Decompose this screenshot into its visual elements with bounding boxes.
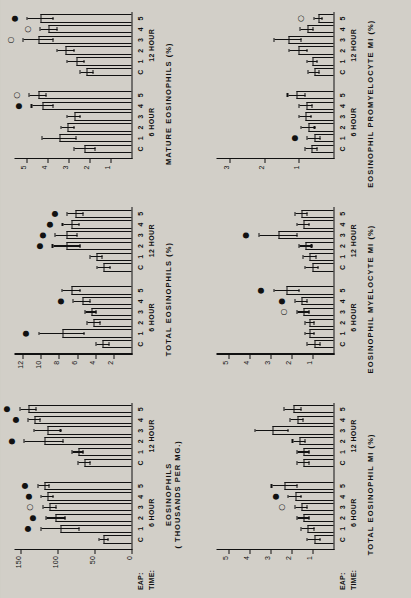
bar <box>34 416 131 424</box>
error-cap-upper <box>45 516 46 520</box>
error-cap-lower <box>319 136 320 140</box>
bar <box>78 448 131 456</box>
error-cap-lower <box>73 126 74 130</box>
panel-title: TOTAL EOSINOPHILS (%) <box>163 201 172 396</box>
error-cap-lower <box>76 233 77 237</box>
error-bar <box>62 290 80 291</box>
y-tick-label: 2 <box>258 165 265 169</box>
x-tick-label: C <box>136 146 144 151</box>
x-tick-label: 3 <box>136 115 144 119</box>
error-cap-upper <box>26 17 27 21</box>
x-tick-label: 3 <box>136 505 144 509</box>
error-cap-lower <box>56 27 57 31</box>
error-cap-upper <box>294 505 295 509</box>
x-tick-label: 4 <box>338 222 346 226</box>
chart-panel-total-eosinophils-pct: 24681012●●●●●●C12345C123456 HOUR12 HOURT… <box>4 201 206 396</box>
x-axis-group-labels: 6 HOUR12 HOUR <box>349 12 360 158</box>
y-tick <box>20 550 21 554</box>
significance-marker: ● <box>20 482 28 489</box>
error-cap-lower <box>79 289 80 293</box>
error-cap-lower <box>308 461 309 465</box>
error-cap-lower <box>321 17 322 21</box>
error-cap-lower <box>108 342 109 346</box>
error-cap-upper <box>296 310 297 314</box>
error-cap-lower <box>73 49 74 53</box>
bar <box>28 405 131 413</box>
error-cap-upper <box>299 27 300 31</box>
error-cap-lower <box>45 93 46 97</box>
error-cap-lower <box>83 60 84 64</box>
error-cap-upper <box>40 527 41 531</box>
significance-marker: ● <box>23 525 31 532</box>
bar <box>48 25 130 33</box>
error-cap-upper <box>66 212 67 216</box>
x-tick-label: C <box>338 537 346 542</box>
bar-series: ●○ <box>216 12 333 158</box>
error-cap-upper <box>304 147 305 151</box>
plot-eosinophils-thousands: 050100150●●○●●●●● <box>14 403 132 550</box>
significance-marker: ● <box>277 298 285 305</box>
error-bar <box>85 311 96 312</box>
error-cap-lower <box>304 439 305 443</box>
error-bar <box>67 213 83 214</box>
error-cap-lower <box>83 332 84 336</box>
y-tick-label: 3 <box>264 361 271 365</box>
error-bar <box>295 213 308 214</box>
error-cap-lower <box>316 147 317 151</box>
plot-total-eosinophil-mi-pct: 12345○● <box>216 403 334 550</box>
error-cap-upper <box>273 38 274 42</box>
y-tick-label: 2 <box>83 165 90 169</box>
x-group-label: 12 HOUR <box>349 419 357 452</box>
y-tick <box>26 159 27 163</box>
error-cap-lower <box>101 255 102 259</box>
error-cap-lower <box>308 450 309 454</box>
y-tick-label: 5 <box>20 165 27 169</box>
error-bar <box>299 105 311 106</box>
x-tick-label: C <box>136 460 144 465</box>
panel-title-line1: MATURE EOSINOPHILS (%) <box>163 42 172 165</box>
error-cap-upper <box>306 342 307 346</box>
error-cap-lower <box>318 70 319 74</box>
error-bar <box>63 224 79 225</box>
x-tick-label: 1 <box>338 59 346 63</box>
x-tick-label: 3 <box>338 38 346 42</box>
significance-marker: ● <box>10 15 18 22</box>
y-tick-label: 1 <box>104 165 111 169</box>
error-cap-lower <box>296 484 297 488</box>
error-bar <box>27 18 52 19</box>
x-tick-label: 4 <box>338 418 346 422</box>
error-bar <box>284 409 301 410</box>
x-tick-label: 3 <box>136 38 144 42</box>
error-cap-lower <box>89 299 90 303</box>
error-cap-lower <box>316 60 317 64</box>
x-tick-label: 5 <box>136 212 144 216</box>
y-tick <box>249 355 250 359</box>
error-bar <box>297 462 310 463</box>
x-tick-label: 1 <box>338 136 346 140</box>
error-cap-lower <box>82 212 83 216</box>
error-cap-lower <box>99 321 100 325</box>
error-cap-upper <box>66 60 67 64</box>
error-cap-upper <box>273 289 274 293</box>
x-tick-label: 2 <box>338 321 346 325</box>
error-bar <box>299 245 312 246</box>
error-bar <box>259 235 297 236</box>
error-cap-upper <box>306 538 307 542</box>
error-cap-upper <box>254 429 255 433</box>
significance-marker: ● <box>56 298 64 305</box>
error-cap-lower <box>75 136 76 140</box>
panel-grid: 050100150●●○●●●●●C12345C123456 HOUR12 HO… <box>4 6 408 592</box>
bar <box>38 91 131 99</box>
error-bar <box>72 452 84 453</box>
error-cap-upper <box>304 266 305 270</box>
x-tick-label: 1 <box>338 450 346 454</box>
panel-title: TOTAL EOSINOPHIL MI (%) <box>365 397 374 592</box>
error-bar <box>87 322 100 323</box>
y-tick-label: 50 <box>88 556 95 564</box>
error-cap-lower <box>52 495 53 499</box>
error-bar <box>307 539 320 540</box>
x-tick-label: 4 <box>136 104 144 108</box>
x-tick-label: 5 <box>338 484 346 488</box>
error-bar <box>305 267 318 268</box>
error-bar <box>73 301 89 302</box>
